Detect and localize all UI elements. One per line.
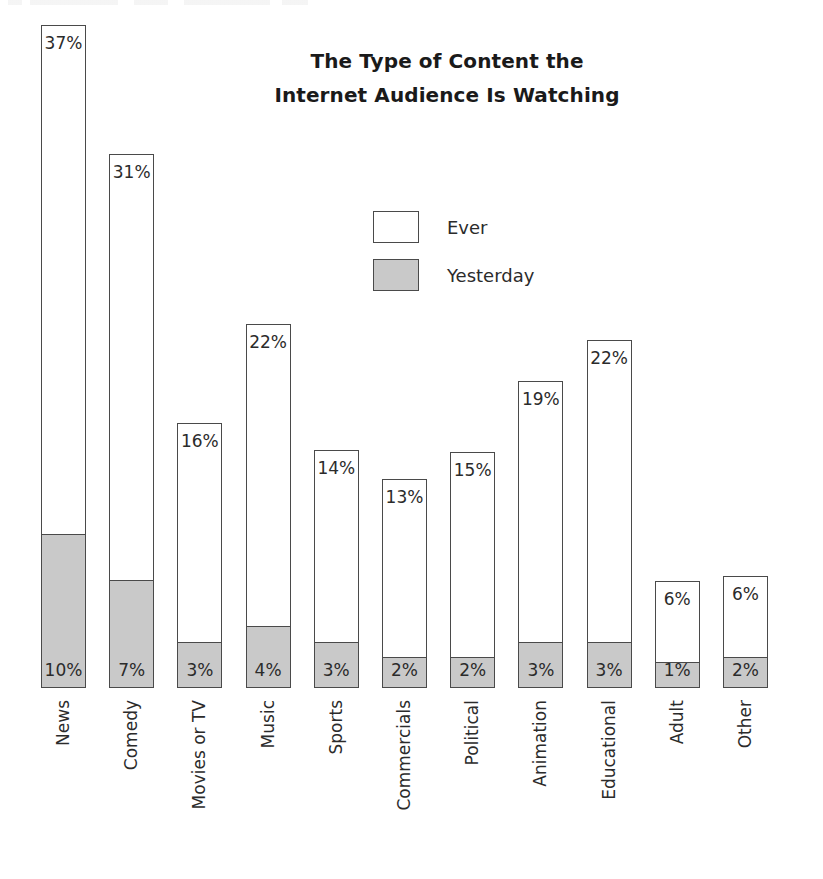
bar-segment-ever: 6% xyxy=(655,581,700,664)
bar-segment-yesterday: 4% xyxy=(246,626,291,688)
bar-segment-ever: 22% xyxy=(587,340,632,644)
bar-group: 16%3% xyxy=(177,423,222,688)
x-axis-tick-label: Animation xyxy=(518,700,563,787)
bar-segment-ever: 6% xyxy=(723,576,768,659)
bar-value-label-yesterday: 3% xyxy=(519,662,562,679)
bar-value-label-yesterday: 4% xyxy=(247,662,290,679)
bar-group: 6%2% xyxy=(723,576,768,688)
bar-segment-ever: 19% xyxy=(518,381,563,643)
bar-value-label-ever: 22% xyxy=(247,334,290,351)
x-axis-tick-label: News xyxy=(41,700,86,746)
bar-segment-ever: 14% xyxy=(314,450,359,643)
bar-value-label-ever: 15% xyxy=(451,462,494,479)
bar-segment-yesterday: 2% xyxy=(723,657,768,688)
bar-segment-yesterday: 2% xyxy=(382,657,427,688)
bar-segment-ever: 22% xyxy=(246,324,291,628)
bar-group: 31%7% xyxy=(109,154,154,688)
bar-segment-ever: 13% xyxy=(382,479,427,658)
bar-value-label-ever: 37% xyxy=(42,35,85,52)
x-axis-tick-label: Sports xyxy=(314,700,359,755)
bar-segment-yesterday: 7% xyxy=(109,580,154,688)
bar-segment-yesterday: 3% xyxy=(518,642,563,688)
x-axis-tick-label: Commercials xyxy=(382,700,427,811)
bar-segment-yesterday: 3% xyxy=(177,642,222,688)
x-axis-tick-label: Other xyxy=(723,700,768,748)
bar-segment-yesterday: 3% xyxy=(314,642,359,688)
bar-group: 22%3% xyxy=(587,340,632,688)
bar-group: 6%1% xyxy=(655,581,700,688)
bar-segment-ever: 15% xyxy=(450,452,495,659)
x-axis-tick-label: Movies or TV xyxy=(177,700,222,809)
bar-value-label-yesterday: 2% xyxy=(724,662,767,679)
bar-value-label-yesterday: 7% xyxy=(110,662,153,679)
x-axis-tick-label: Educational xyxy=(587,700,632,800)
bar-segment-yesterday: 3% xyxy=(587,642,632,688)
bar-value-label-yesterday: 3% xyxy=(178,662,221,679)
bar-value-label-yesterday: 3% xyxy=(315,662,358,679)
x-axis-tick-label: Music xyxy=(246,700,291,748)
bar-group: 22%4% xyxy=(246,324,291,688)
bar-group: 37%10% xyxy=(41,25,86,688)
bar-value-label-yesterday: 10% xyxy=(42,662,85,679)
bar-group: 19%3% xyxy=(518,381,563,688)
bar-value-label-yesterday: 2% xyxy=(383,662,426,679)
bar-value-label-ever: 6% xyxy=(656,591,699,608)
bar-value-label-ever: 13% xyxy=(383,489,426,506)
bar-value-label-ever: 14% xyxy=(315,460,358,477)
x-axis-tick-label: Adult xyxy=(655,700,700,744)
x-axis-tick-label: Comedy xyxy=(109,700,154,770)
x-axis-tick-label: Political xyxy=(450,700,495,765)
bar-value-label-ever: 16% xyxy=(178,433,221,450)
chart-plot-area: 37%10%News31%7%Comedy16%3%Movies or TV22… xyxy=(0,0,823,879)
bar-value-label-yesterday: 2% xyxy=(451,662,494,679)
bar-segment-ever: 16% xyxy=(177,423,222,644)
bar-value-label-ever: 6% xyxy=(724,586,767,603)
bar-group: 15%2% xyxy=(450,452,495,688)
bar-segment-ever: 37% xyxy=(41,25,86,536)
bar-segment-yesterday: 2% xyxy=(450,657,495,688)
bar-value-label-ever: 31% xyxy=(110,164,153,181)
bar-group: 13%2% xyxy=(382,479,427,688)
bar-segment-ever: 31% xyxy=(109,154,154,582)
bar-segment-yesterday: 1% xyxy=(655,662,700,688)
bar-value-label-yesterday: 3% xyxy=(588,662,631,679)
bar-value-label-ever: 22% xyxy=(588,350,631,367)
bar-group: 14%3% xyxy=(314,450,359,688)
bar-segment-yesterday: 10% xyxy=(41,534,86,688)
bar-value-label-ever: 19% xyxy=(519,391,562,408)
bar-value-label-yesterday: 1% xyxy=(656,662,699,679)
